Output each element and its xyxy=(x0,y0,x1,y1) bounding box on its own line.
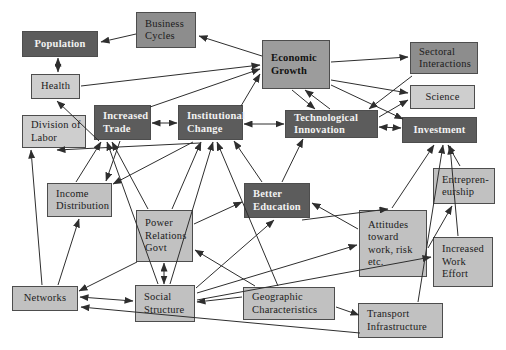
node-label-line: Economic xyxy=(271,52,317,64)
node-label-line: Attitudes xyxy=(368,219,408,231)
node-label-line: etc. xyxy=(368,256,384,268)
node-income-distribution: IncomeDistribution xyxy=(47,183,112,217)
node-entrepreneurship: Entrepren-eurship xyxy=(433,168,495,204)
node-attitudes-work-risk: Attitudestowardwork, risketc. xyxy=(359,210,427,277)
node-sectoral-interactions: SectoralInteractions xyxy=(410,42,478,74)
node-label-line: Business xyxy=(145,18,184,30)
node-label-line: Work xyxy=(442,256,466,268)
node-population: Population xyxy=(22,31,98,57)
node-label-line: eurship xyxy=(442,186,474,198)
node-label-line: Effort xyxy=(442,268,468,280)
node-better-education: BetterEducation xyxy=(244,183,310,218)
node-geographic-characteristics: GeographicCharacteristics xyxy=(243,287,335,320)
node-social-structure: SocialStructure xyxy=(135,285,195,322)
node-label-line: Investment xyxy=(413,124,465,136)
node-label-line: Division of xyxy=(31,119,81,131)
node-label-line: Change xyxy=(187,123,223,135)
node-institutional-change: InstitutionalChange xyxy=(178,105,243,140)
node-economic-growth: EconomicGrowth xyxy=(262,40,330,89)
node-power-relations-govt: PowerRelationsGovt xyxy=(136,210,193,262)
node-label-line: Technological xyxy=(294,112,358,124)
nodes-layer: PopulationBusinessCyclesEconomicGrowthSe… xyxy=(0,0,506,350)
node-increased-work-effort: IncreasedWorkEffort xyxy=(433,237,493,287)
node-label-line: Sectoral xyxy=(419,46,455,58)
node-label-line: Institutional xyxy=(187,110,245,122)
node-label-line: toward xyxy=(368,231,398,243)
node-label-line: Interactions xyxy=(419,58,471,70)
node-label-line: Social xyxy=(144,291,171,303)
node-label-line: Education xyxy=(253,201,301,213)
node-health: Health xyxy=(31,74,80,99)
node-label-line: Transport xyxy=(367,308,409,320)
node-networks: Networks xyxy=(12,286,78,311)
node-label-line: Networks xyxy=(24,292,66,304)
node-label-line: Characteristics xyxy=(252,304,317,316)
node-label-line: Distribution xyxy=(56,200,109,212)
node-label-line: Power xyxy=(145,217,173,229)
node-label-line: Health xyxy=(41,80,70,92)
node-label-line: work, risk xyxy=(368,244,413,256)
node-increased-trade: IncreasedTrade xyxy=(94,105,151,140)
diagram-canvas: PopulationBusinessCyclesEconomicGrowthSe… xyxy=(0,0,506,350)
node-technological-innovation: TechnologicalInnovation xyxy=(285,110,378,138)
node-division-of-labor: Division ofLabor xyxy=(22,115,86,148)
node-label-line: Trade xyxy=(103,123,131,135)
node-business-cycles: BusinessCycles xyxy=(136,12,196,48)
node-label-line: Better xyxy=(253,188,282,200)
node-label-line: Geographic xyxy=(252,291,303,303)
node-label-line: Increased xyxy=(103,110,148,122)
node-science: Science xyxy=(410,85,475,109)
node-label-line: Cycles xyxy=(145,30,175,42)
node-label-line: Structure xyxy=(144,304,184,316)
node-transport-infrastructure: TransportInfrastructure xyxy=(358,303,443,338)
node-label-line: Govt xyxy=(145,242,167,254)
node-label-line: Increased xyxy=(442,243,484,255)
node-label-line: Population xyxy=(34,38,85,50)
node-label-line: Entrepren- xyxy=(442,174,489,186)
node-label-line: Labor xyxy=(31,132,57,144)
node-label-line: Science xyxy=(425,91,459,103)
node-label-line: Innovation xyxy=(294,124,345,136)
node-label-line: Income xyxy=(56,188,89,200)
node-label-line: Growth xyxy=(271,65,307,77)
node-investment: Investment xyxy=(402,117,477,143)
node-label-line: Relations xyxy=(145,230,186,242)
node-label-line: Infrastructure xyxy=(367,321,427,333)
